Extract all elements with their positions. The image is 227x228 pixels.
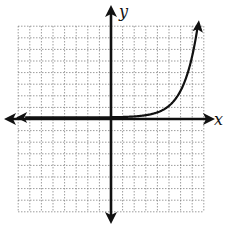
coordinate-plane: x y xyxy=(0,0,227,228)
x-axis-label: x xyxy=(214,110,223,129)
y-axis-label: y xyxy=(118,2,129,21)
